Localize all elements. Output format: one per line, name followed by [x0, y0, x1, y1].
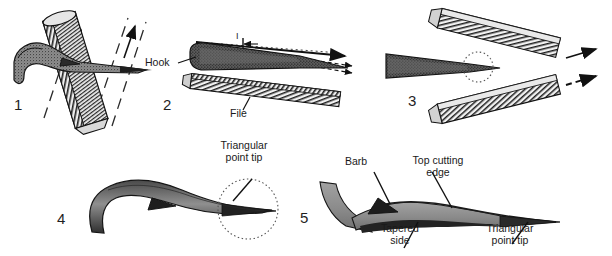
label-top-cutting-edge-line1: Top cutting — [398, 155, 478, 167]
label-top-cutting-edge-line2: edge — [398, 167, 478, 179]
panel-number-4: 4 — [57, 210, 65, 227]
panel-2-group — [178, 38, 352, 110]
panel-number-5: 5 — [300, 209, 308, 226]
panel-number-1: 1 — [14, 96, 22, 113]
label-triangular-point-tip-p5-line1: Triangular — [468, 223, 552, 235]
panel-1-group — [14, 8, 152, 137]
label-dimension-mark: I — [236, 31, 239, 43]
figure-canvas: 1 2 3 4 5 Hook File I Triangular point t… — [0, 0, 612, 256]
panel-number-2: 2 — [163, 96, 171, 113]
label-hook: Hook — [145, 57, 170, 69]
label-tapered-side-line2: side — [364, 235, 436, 247]
barb-leader-line — [374, 172, 390, 204]
panel-3-group — [386, 6, 596, 126]
label-triangular-point-tip-p5-line2: point tip — [468, 235, 552, 247]
label-barb: Barb — [345, 156, 367, 168]
panel-4-group — [90, 179, 278, 239]
panel-number-3: 3 — [408, 92, 416, 109]
label-triangular-point-tip-p4-line1: Triangular — [203, 140, 285, 152]
label-triangular-point-tip-p4-line2: point tip — [203, 152, 285, 164]
label-file: File — [230, 108, 247, 120]
tip-leader-line — [233, 179, 252, 201]
label-tapered-side-line1: Tapered — [364, 223, 436, 235]
